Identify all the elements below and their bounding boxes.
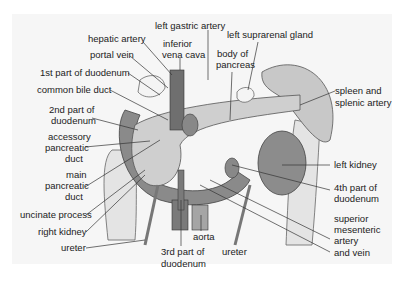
inferior-vena-cava xyxy=(170,70,184,130)
label-spleen-2: splenic artery xyxy=(335,97,392,108)
label-aorta: aorta xyxy=(193,231,215,242)
label-inferior-vena-cava-2: vena cava xyxy=(162,49,206,60)
label-body-of-pancreas-2: pancreas xyxy=(216,59,255,70)
label-main-duct-3: duct xyxy=(65,191,83,202)
label-common-bile-duct: common bile duct xyxy=(37,84,112,95)
label-uncinate-process: uncinate process xyxy=(20,209,92,220)
label-left-suprarenal-gland: left suprarenal gland xyxy=(227,29,313,40)
left-kidney xyxy=(258,131,306,195)
jejunum-end xyxy=(225,158,239,178)
label-fourth-part-2: duodenum xyxy=(334,193,379,204)
label-ureter-left: ureter xyxy=(61,242,86,253)
label-ureter-right: ureter xyxy=(222,246,247,257)
label-right-kidney: right kidney xyxy=(38,226,87,237)
label-sma-1: superior xyxy=(334,213,368,224)
label-portal-vein: portal vein xyxy=(90,49,134,60)
label-third-part-2: duodenum xyxy=(161,258,206,269)
label-left-gastric-artery: left gastric artery xyxy=(155,20,225,31)
label-hepatic-artery: hepatic artery xyxy=(88,33,146,44)
label-sma-4: and vein xyxy=(334,247,370,258)
label-body-of-pancreas-1: body of xyxy=(217,48,249,59)
label-main-duct-1: main xyxy=(66,169,87,180)
right-suprarenal-gland xyxy=(138,76,165,97)
label-fourth-part-1: 4th part of xyxy=(334,182,377,193)
label-accessory-3: duct xyxy=(65,153,83,164)
label-accessory-1: accessory xyxy=(48,131,91,142)
label-main-duct-2: pancreatic xyxy=(45,180,89,191)
label-second-part-2: duodenum xyxy=(51,115,96,126)
label-accessory-2: pancreatic xyxy=(45,142,89,153)
anatomy-diagram: left gastric artery hepatic artery infer… xyxy=(0,0,405,285)
label-inferior-vena-cava-1: inferior xyxy=(163,38,192,49)
aorta xyxy=(192,205,208,230)
label-spleen-1: spleen and xyxy=(335,85,381,96)
label-sma-2: mesenteric xyxy=(334,224,381,235)
label-left-kidney: left kidney xyxy=(334,159,377,170)
label-first-part-duodenum: 1st part of duodenum xyxy=(40,67,130,78)
duodenum-lumen xyxy=(182,114,198,136)
label-second-part-1: 2nd part of xyxy=(49,104,95,115)
label-third-part-1: 3rd part of xyxy=(161,246,205,257)
label-sma-3: artery xyxy=(334,235,359,246)
